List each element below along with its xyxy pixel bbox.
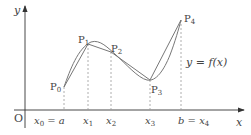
tick-label-x4: b = x4: [178, 115, 210, 128]
tick-label-x0: x0 = a: [34, 115, 65, 128]
tick-label-x1: x1: [83, 115, 93, 128]
approx-polyline: [64, 20, 181, 87]
origin-label: O: [14, 112, 23, 125]
point-label-p0: P0: [50, 81, 61, 94]
point-label-p4: P4: [184, 13, 196, 26]
point-label-p2: P2: [111, 43, 122, 56]
point-label-p3: P3: [151, 84, 162, 97]
point-label-p1: P1: [78, 34, 89, 47]
curve-label: y = f(x): [185, 56, 227, 69]
tick-label-x3: x3: [145, 115, 155, 128]
diagram-canvas: y x O P0 P1 P2 P3 P4 y = f(x) x0 = a x1 …: [0, 0, 251, 135]
tick-label-x2: x2: [106, 115, 116, 128]
y-axis-label: y: [13, 4, 21, 17]
x-axis-label: x: [236, 116, 243, 129]
